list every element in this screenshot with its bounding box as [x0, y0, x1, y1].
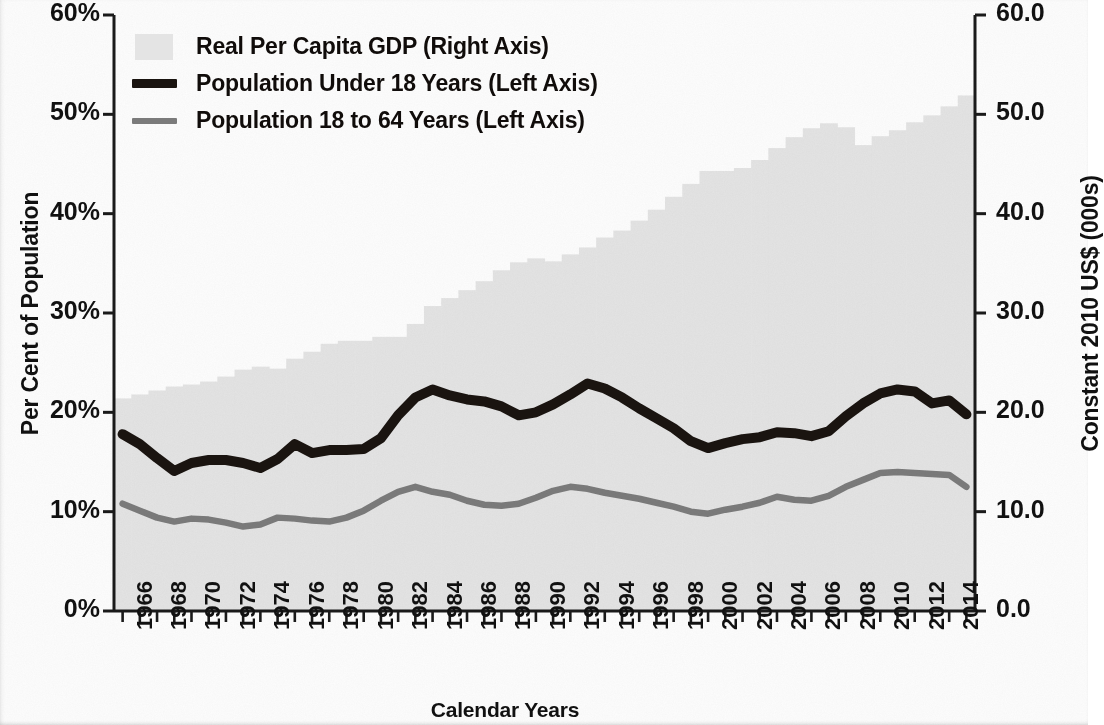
x-tick-label: 1982 [407, 581, 433, 630]
y-tick-left-label: 40% [38, 197, 100, 226]
legend-label-18to64: Population 18 to 64 Years (Left Axis) [196, 107, 585, 134]
area-swatch-icon [128, 34, 180, 60]
x-tick-label: 1992 [579, 581, 605, 630]
x-tick-label: 1994 [614, 581, 640, 630]
x-tick-label: 2000 [717, 581, 743, 630]
y-tick-right-label: 50.0 [996, 97, 1045, 126]
x-tick-label: 2010 [889, 581, 915, 630]
legend-label-under18: Population Under 18 Years (Left Axis) [196, 70, 598, 97]
x-tick-label: 1996 [648, 581, 674, 630]
x-tick-label: 1988 [510, 581, 536, 630]
y-tick-right-label: 20.0 [996, 395, 1045, 424]
x-tick-label: 1990 [545, 581, 571, 630]
gray-line-icon [128, 118, 180, 124]
x-tick-label: 2002 [752, 581, 778, 630]
x-tick-label: 1966 [132, 581, 158, 630]
y-tick-left-label: 0% [38, 594, 100, 623]
x-tick-label: 2014 [958, 581, 984, 630]
x-tick-label: 2004 [786, 581, 812, 630]
y-tick-left-label: 20% [38, 395, 100, 424]
x-tick-label: 1970 [200, 581, 226, 630]
chart-legend: Real Per Capita GDP (Right Axis) Populat… [128, 28, 598, 139]
y-tick-right-label: 0.0 [996, 594, 1031, 623]
x-tick-label: 2008 [855, 581, 881, 630]
legend-label-gdp: Real Per Capita GDP (Right Axis) [196, 33, 549, 60]
x-tick-label: 1986 [476, 581, 502, 630]
y-tick-right-label: 40.0 [996, 197, 1045, 226]
y-tick-right-label: 10.0 [996, 495, 1045, 524]
gdp-area-series [114, 95, 976, 611]
x-tick-label: 1984 [442, 581, 468, 630]
x-tick-label: 1978 [338, 581, 364, 630]
legend-item-gdp: Real Per Capita GDP (Right Axis) [128, 28, 598, 65]
legend-item-under18: Population Under 18 Years (Left Axis) [128, 65, 598, 102]
y-tick-left-label: 10% [38, 495, 100, 524]
x-tick-label: 1972 [235, 581, 261, 630]
x-tick-label: 2012 [924, 581, 950, 630]
x-tick-label: 1968 [166, 581, 192, 630]
y-tick-right-label: 30.0 [996, 296, 1045, 325]
y-tick-left-label: 30% [38, 296, 100, 325]
x-tick-label: 1998 [683, 581, 709, 630]
y-tick-right-label: 60.0 [996, 0, 1045, 27]
x-tick-label: 1976 [304, 581, 330, 630]
legend-item-18to64: Population 18 to 64 Years (Left Axis) [128, 102, 598, 139]
thick-black-line-icon [128, 79, 180, 88]
y-tick-left-label: 60% [38, 0, 100, 27]
x-tick-label: 1974 [269, 581, 295, 630]
x-tick-label: 1980 [373, 581, 399, 630]
x-tick-label: 2006 [820, 581, 846, 630]
y-tick-left-label: 50% [38, 97, 100, 126]
